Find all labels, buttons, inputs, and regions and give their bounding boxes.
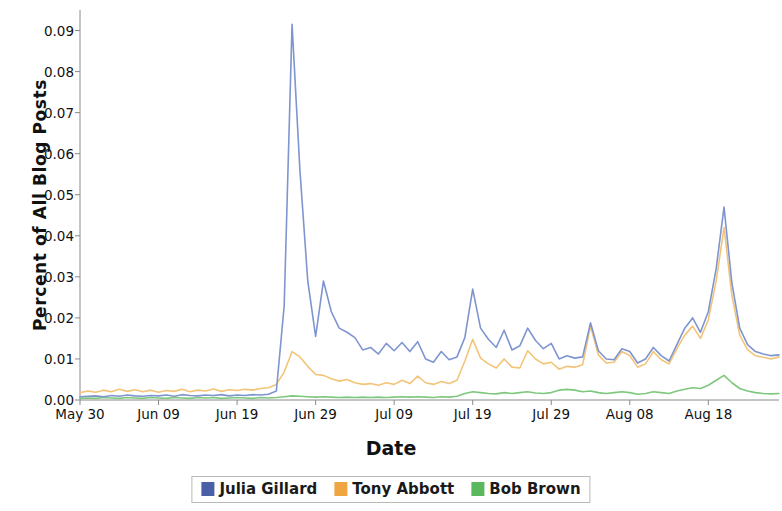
- legend-item[interactable]: Bob Brown: [471, 480, 580, 498]
- plot-area: [0, 0, 782, 420]
- series-line-julia-gillard: [80, 24, 779, 396]
- x-tick-label: Jul 19: [454, 406, 492, 422]
- legend-label: Julia Gillard: [219, 480, 317, 498]
- x-tick-label: Jun 19: [216, 406, 259, 422]
- legend-color-swatch: [201, 482, 214, 496]
- series-line-tony-abbott: [80, 228, 779, 393]
- legend-item[interactable]: Tony Abbott: [334, 480, 454, 498]
- x-tick-label: Aug 08: [606, 406, 654, 422]
- legend-color-swatch: [471, 482, 484, 496]
- line-chart: Percent of All Blog Posts 0.000.010.020.…: [0, 0, 782, 511]
- legend-color-swatch: [334, 482, 347, 496]
- x-tick-label: Jun 29: [294, 406, 337, 422]
- x-tick-label: Jul 29: [532, 406, 570, 422]
- x-tick-label: Aug 18: [684, 406, 732, 422]
- x-tick-label: Jul 09: [375, 406, 413, 422]
- x-tick-label: Jun 09: [137, 406, 180, 422]
- x-tick-label: May 30: [55, 406, 104, 422]
- x-axis-title: Date: [0, 437, 782, 459]
- legend-label: Bob Brown: [489, 480, 580, 498]
- legend-label: Tony Abbott: [352, 480, 454, 498]
- legend: Julia GillardTony AbbottBob Brown: [191, 476, 590, 503]
- legend-item[interactable]: Julia Gillard: [201, 480, 317, 498]
